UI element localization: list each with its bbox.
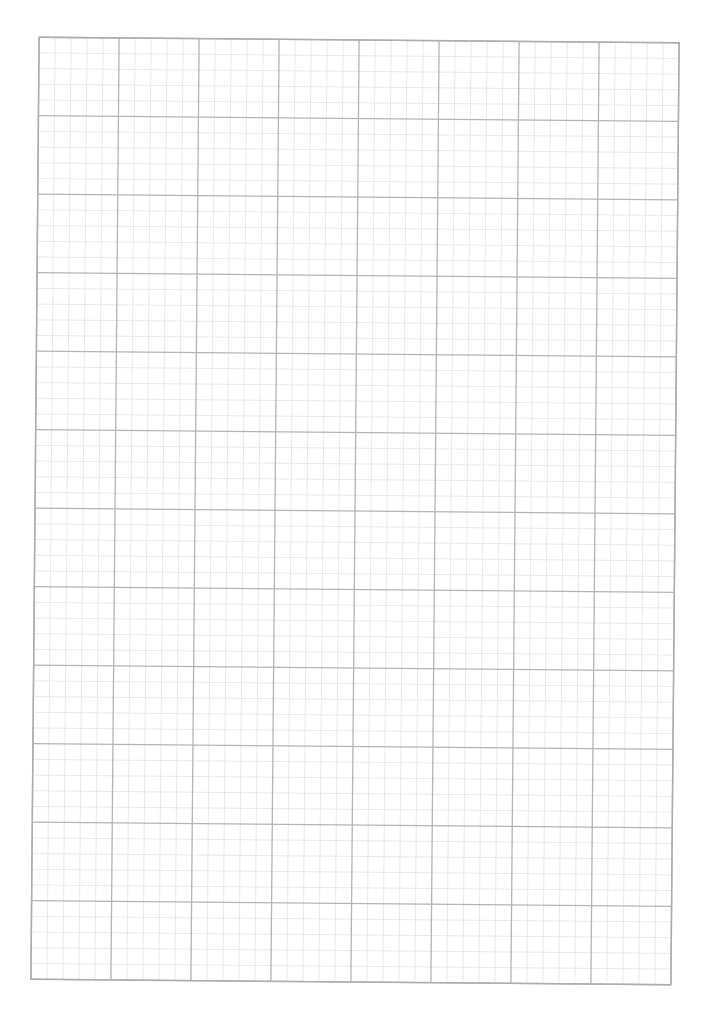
grid <box>0 0 705 1019</box>
grid-lines <box>31 37 679 985</box>
graph-paper-sheet <box>0 0 705 1019</box>
